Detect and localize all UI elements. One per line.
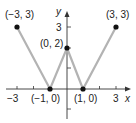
point-3-3 xyxy=(113,24,118,29)
tick-label-x-neg3: −3 xyxy=(7,93,19,104)
function-line xyxy=(17,27,116,89)
y-axis-arrow-icon xyxy=(65,11,70,17)
graph-svg: y x 3 −3 3 (−3, 3) (3, 3) (0, 2) (−1, 0)… xyxy=(0,0,136,123)
point-label-3-3: (3, 3) xyxy=(106,9,129,20)
point-label-neg3-3: (−3, 3) xyxy=(5,9,34,20)
point-neg1-0 xyxy=(47,86,52,91)
point-label-1-0: (1, 0) xyxy=(74,93,97,104)
point-1-0 xyxy=(80,86,85,91)
point-neg3-3 xyxy=(14,24,19,29)
point-0-2 xyxy=(64,45,69,50)
graph: y x 3 −3 3 (−3, 3) (3, 3) (0, 2) (−1, 0)… xyxy=(0,0,136,123)
tick-label-x-3: 3 xyxy=(113,93,119,104)
point-label-0-2: (0, 2) xyxy=(40,38,63,49)
x-axis-arrow-icon xyxy=(125,87,131,92)
y-ticks xyxy=(67,27,71,109)
y-axis-label: y xyxy=(55,6,62,17)
tick-label-y-3: 3 xyxy=(56,22,62,33)
x-axis-label: x xyxy=(124,93,131,104)
point-label-neg1-0: (−1, 0) xyxy=(31,93,60,104)
data-points xyxy=(14,24,118,91)
